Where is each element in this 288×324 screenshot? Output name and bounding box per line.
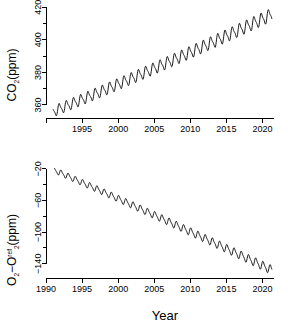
svg-text:2015: 2015 bbox=[216, 284, 236, 294]
svg-text:−20: −20 bbox=[33, 161, 43, 176]
svg-text:2000: 2000 bbox=[108, 284, 128, 294]
co2-data-line bbox=[53, 10, 272, 116]
x-axis-title: Year bbox=[152, 308, 179, 323]
co2-chart-panel: 360380400420 199520002005201020152020 CO… bbox=[0, 0, 288, 150]
svg-text:400: 400 bbox=[33, 32, 43, 47]
svg-text:2010: 2010 bbox=[180, 284, 200, 294]
svg-text:2010: 2010 bbox=[180, 124, 200, 134]
co2-y-tick-label-group: 360380400420 bbox=[33, 0, 43, 112]
co2-y-tick-group bbox=[42, 7, 47, 105]
figure-canvas: 360380400420 199520002005201020152020 CO… bbox=[0, 0, 288, 324]
svg-text:1995: 1995 bbox=[72, 284, 92, 294]
svg-text:1995: 1995 bbox=[72, 124, 92, 134]
svg-text:420: 420 bbox=[33, 0, 43, 15]
svg-text:2020: 2020 bbox=[252, 284, 272, 294]
co2-x-tick-group bbox=[46, 118, 262, 123]
o2-data-line bbox=[55, 169, 272, 273]
o2-x-tick-group bbox=[46, 278, 262, 283]
co2-plot-area bbox=[53, 10, 272, 116]
o2-chart-panel: −140−100−60−20 1990199520002005201020152… bbox=[0, 150, 288, 324]
o2-x-axis: 1990199520002005201020152020 bbox=[36, 278, 274, 294]
svg-text:2000: 2000 bbox=[108, 124, 128, 134]
co2-y-axis: 360380400420 bbox=[33, 0, 46, 112]
svg-text:1990: 1990 bbox=[36, 284, 56, 294]
o2-y-axis-title: O2−Oref2(ppm) bbox=[5, 214, 20, 286]
o2-y-tick-group bbox=[42, 169, 47, 264]
svg-text:2005: 2005 bbox=[144, 284, 164, 294]
o2-y-tick-label-group: −140−100−60−20 bbox=[33, 161, 43, 274]
svg-text:380: 380 bbox=[33, 65, 43, 80]
svg-text:2015: 2015 bbox=[216, 124, 236, 134]
co2-x-tick-label-group: 199520002005201020152020 bbox=[72, 124, 272, 134]
o2-y-axis: −140−100−60−20 bbox=[33, 161, 46, 274]
co2-y-axis-title: CO2(ppm) bbox=[5, 49, 20, 102]
svg-text:2020: 2020 bbox=[252, 124, 272, 134]
o2-plot-area bbox=[55, 169, 272, 273]
svg-text:−100: −100 bbox=[33, 222, 43, 242]
o2-x-tick-label-group: 1990199520002005201020152020 bbox=[36, 284, 272, 294]
svg-text:−140: −140 bbox=[33, 254, 43, 274]
svg-text:360: 360 bbox=[33, 97, 43, 112]
svg-text:−60: −60 bbox=[33, 193, 43, 208]
co2-x-axis: 199520002005201020152020 bbox=[46, 118, 274, 134]
svg-text:2005: 2005 bbox=[144, 124, 164, 134]
